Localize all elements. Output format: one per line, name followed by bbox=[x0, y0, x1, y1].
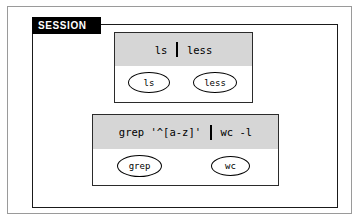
pipeline-box-ls-less: ls less ls less bbox=[114, 32, 253, 103]
process-node-less: less bbox=[193, 72, 237, 93]
process-node-grep: grep bbox=[117, 155, 162, 177]
pipe-symbol-icon-1 bbox=[176, 42, 178, 57]
command-left-segment-1: ls bbox=[155, 44, 168, 56]
session-diagram: SESSION ls less ls less grep '^[a-z]' wc… bbox=[0, 0, 360, 223]
command-left-segment-2: grep '^[a-z]' bbox=[119, 126, 201, 138]
pipeline-command-header-2: grep '^[a-z]' wc -l bbox=[93, 115, 278, 149]
command-right-segment-2: wc -l bbox=[221, 126, 253, 138]
process-node-wc: wc bbox=[211, 156, 250, 176]
session-label-tab: SESSION bbox=[32, 17, 101, 34]
command-right-segment-1: less bbox=[187, 44, 212, 56]
pipeline-nodes-2: grep wc bbox=[93, 149, 278, 184]
command-line-1: ls less bbox=[155, 42, 212, 57]
pipeline-command-header-1: ls less bbox=[115, 33, 252, 66]
process-node-ls: ls bbox=[128, 72, 170, 93]
command-line-2: grep '^[a-z]' wc -l bbox=[119, 125, 252, 140]
pipe-symbol-icon-2 bbox=[210, 125, 212, 140]
pipeline-box-grep-wc: grep '^[a-z]' wc -l grep wc bbox=[92, 114, 279, 186]
pipeline-nodes-1: ls less bbox=[115, 66, 252, 101]
